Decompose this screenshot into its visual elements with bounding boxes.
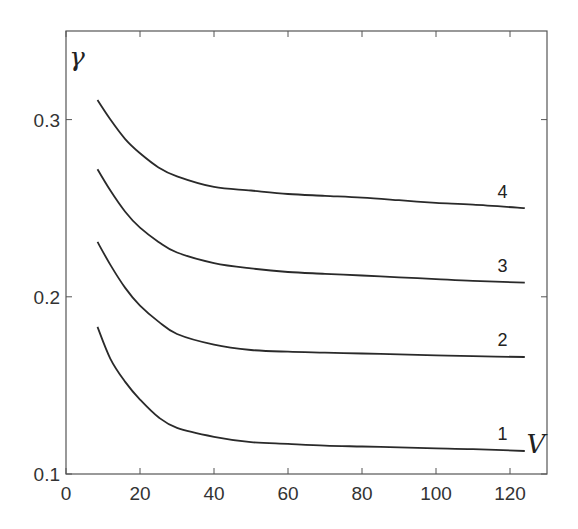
curve-3 — [98, 169, 525, 282]
data-curves — [98, 100, 525, 451]
curve-4 — [98, 100, 525, 208]
x-tick-label: 100 — [420, 483, 452, 504]
line-chart: 020406080100120 0.10.20.3 1234Vγ — [0, 0, 578, 529]
y-tick-label: 0.3 — [34, 110, 60, 131]
y-tick-label: 0.2 — [34, 287, 60, 308]
y-axis-label: γ — [69, 42, 85, 72]
x-axis-ticks: 020406080100120 — [61, 31, 526, 504]
y-axis-ticks: 0.10.20.3 — [34, 110, 547, 485]
curve-label-4: 4 — [498, 182, 508, 202]
plot-frame — [66, 31, 547, 474]
curve-1 — [98, 327, 525, 451]
x-tick-label: 60 — [277, 483, 298, 504]
x-tick-label: 40 — [203, 483, 224, 504]
y-tick-label: 0.1 — [34, 464, 60, 485]
x-tick-label: 80 — [351, 483, 372, 504]
curve-label-1: 1 — [498, 424, 508, 444]
curve-2 — [98, 242, 525, 357]
x-tick-label: 0 — [61, 483, 72, 504]
annotations: 1234Vγ — [69, 42, 547, 458]
x-tick-label: 20 — [129, 483, 150, 504]
x-axis-label: V — [527, 429, 548, 459]
x-tick-label: 120 — [494, 483, 526, 504]
curve-label-3: 3 — [498, 256, 508, 276]
curve-label-2: 2 — [498, 330, 508, 350]
